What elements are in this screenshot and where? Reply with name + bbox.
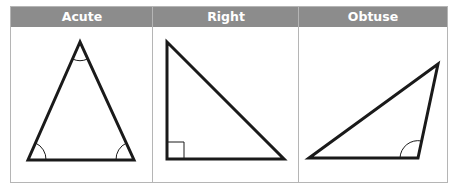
right-triangle xyxy=(167,42,284,159)
angle-arc-right xyxy=(116,143,127,160)
triangles-figure xyxy=(0,0,456,190)
angle-arc-left xyxy=(36,143,47,160)
angle-arc-apex xyxy=(73,59,88,61)
obtuse-triangle xyxy=(309,64,438,158)
right-angle-mark xyxy=(167,142,184,159)
acute-triangle xyxy=(28,42,134,160)
